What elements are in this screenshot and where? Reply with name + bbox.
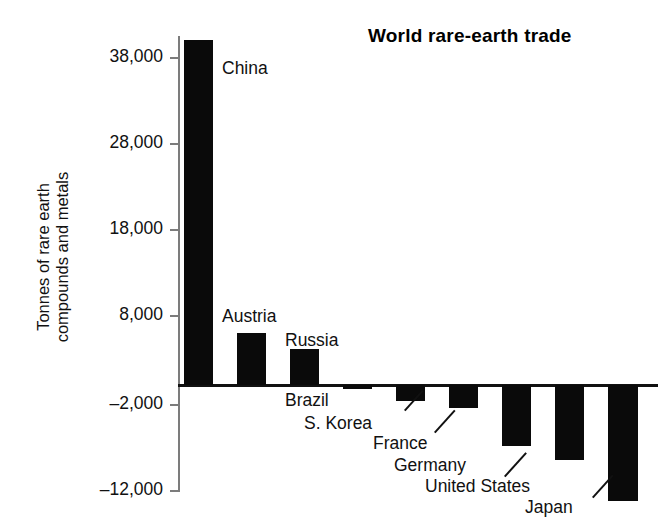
y-tick-label-18000-wrap: 18,000 — [0, 218, 163, 238]
series-label-skorea: S. Korea — [304, 413, 372, 434]
series-label-china: China — [222, 58, 268, 79]
bar-united-states — [555, 385, 584, 460]
series-label-austria: Austria — [222, 306, 276, 327]
y-tick-mark-8000 — [170, 315, 179, 317]
series-label-russia: Russia — [285, 330, 339, 351]
y-tick-label-28000-wrap: 28,000 — [0, 132, 163, 152]
bar-china — [184, 40, 213, 385]
bar-russia — [290, 349, 319, 385]
y-tick-label-neg2000-wrap: –2,000 — [0, 393, 163, 413]
y-axis-title: Tonnes of rare earth compounds and metal… — [34, 127, 72, 387]
bar-germany — [502, 385, 531, 446]
y-tick-label-8000-wrap: 8,000 — [0, 304, 163, 324]
y-tick-label-neg2000: –2,000 — [0, 393, 163, 414]
y-tick-label-8000: 8,000 — [0, 304, 163, 325]
series-label-germany: Germany — [394, 455, 466, 476]
leader-line-france — [434, 410, 455, 433]
chart-title: World rare-earth trade — [368, 25, 572, 47]
bar-austria — [237, 333, 266, 385]
y-axis-line — [178, 36, 180, 492]
leader-line-united-states — [504, 452, 527, 477]
series-label-united-states: United States — [425, 476, 530, 497]
y-tick-label-neg12000-wrap: –12,000 — [0, 479, 163, 499]
y-tick-mark-neg2000 — [170, 404, 179, 406]
y-tick-label-38000: 38,000 — [0, 46, 163, 67]
y-tick-mark-28000 — [170, 143, 179, 145]
bar-france — [449, 385, 478, 408]
y-tick-mark-neg12000 — [170, 490, 179, 492]
bar-brazil — [343, 385, 372, 389]
series-label-france: France — [373, 433, 427, 454]
y-tick-label-neg12000: –12,000 — [0, 479, 163, 500]
bar-chart: World rare-earth trade Tonnes of rare ea… — [0, 0, 658, 532]
bar-japan — [608, 385, 638, 501]
series-label-brazil: Brazil — [285, 390, 329, 411]
y-tick-label-18000: 18,000 — [0, 218, 163, 239]
series-label-japan: Japan — [525, 497, 573, 518]
y-tick-mark-38000 — [170, 57, 179, 59]
y-tick-mark-18000 — [170, 229, 179, 231]
y-tick-label-28000: 28,000 — [0, 132, 163, 153]
y-axis-title-line-2: compounds and metals — [53, 127, 72, 387]
y-tick-label-38000-wrap: 38,000 — [0, 46, 163, 66]
